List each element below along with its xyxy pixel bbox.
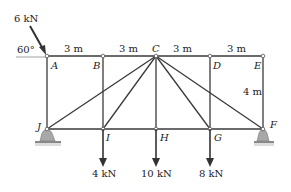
load-label-A: 6 kN [14,13,39,24]
truss-members [47,56,263,129]
node-label-F: F [269,119,278,130]
load-label-I: 4 kN [92,168,117,179]
truss-diagram: 6 kN 60° 3 m 3 m 3 m 3 m 4 m A B C D E J… [0,0,291,192]
node-label-D: D [212,60,221,71]
angle-label: 60° [17,44,35,55]
node-label-I: I [105,132,111,143]
node-label-B: B [92,60,100,71]
member-CG [156,56,210,129]
span-label-1: 3 m [64,43,84,54]
joints [45,54,265,131]
node-label-J: J [35,121,42,132]
span-label-2: 3 m [119,43,139,54]
support-F [254,127,274,146]
load-label-G: 8 kN [199,168,224,179]
downward-loads [99,129,214,167]
span-label-4: 3 m [227,43,247,54]
span-label-3: 3 m [173,43,193,54]
member-CJ [47,56,156,129]
member-CI [103,56,156,129]
node-label-A: A [50,60,58,71]
node-label-G: G [214,132,222,143]
height-label: 4 m [243,86,263,97]
load-label-H: 10 kN [141,168,172,179]
node-label-E: E [253,60,262,71]
node-label-H: H [159,132,169,143]
node-label-C: C [152,43,160,54]
